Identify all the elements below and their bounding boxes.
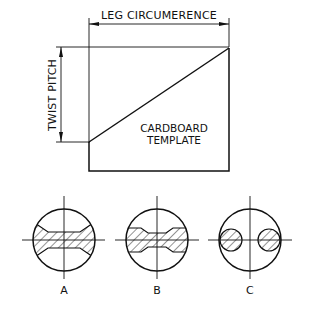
twist-pitch-label: TWIST PITCH <box>46 59 59 132</box>
arrow-down-icon <box>59 132 63 142</box>
leg-circumference-label: LEG CIRCUMERENCE <box>101 9 217 22</box>
template-label-line2: TEMPLATE <box>146 134 201 146</box>
cardboard-template: CARDBOARD TEMPLATE <box>89 48 229 171</box>
arrow-up-icon <box>59 47 63 57</box>
leg-twist-diagram: LEG CIRCUMERENCE TWIST PITCH CARDBOARD T… <box>0 0 315 309</box>
section-c-label: C <box>246 284 254 297</box>
section-a-label: A <box>60 284 68 297</box>
section-b-label: B <box>153 284 161 297</box>
section-c: C <box>208 196 292 297</box>
arrow-right-icon <box>219 22 229 26</box>
section-b: B <box>115 196 199 297</box>
template-label-line1: CARDBOARD <box>140 122 208 134</box>
arrow-left-icon <box>89 22 99 26</box>
section-a: A <box>20 196 108 297</box>
